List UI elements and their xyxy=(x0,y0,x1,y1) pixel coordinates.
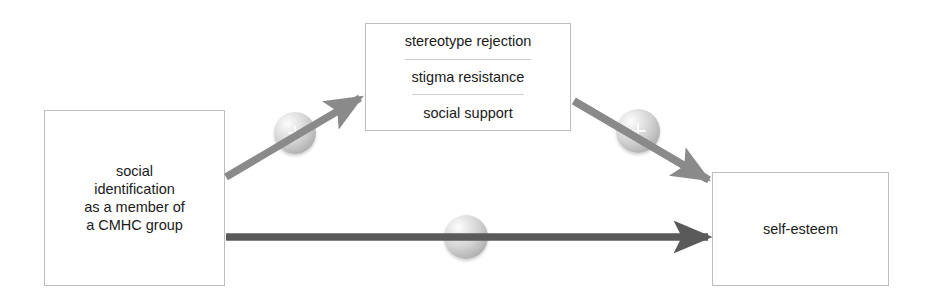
edge-layer xyxy=(0,0,930,303)
diagram-canvas: social identification as a member of a C… xyxy=(0,0,930,303)
edge-antecedent-to-mediators xyxy=(226,98,360,177)
edge-mediators-to-outcome xyxy=(574,101,707,179)
